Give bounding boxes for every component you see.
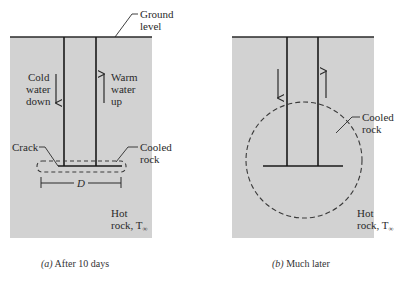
cold-label: Cold — [28, 71, 50, 83]
cold-label-3: down — [26, 95, 51, 107]
hot-rock-label-b-2: rock, T∞ — [357, 219, 394, 233]
ground-label-2: level — [140, 20, 161, 32]
warm-label: Warm — [111, 71, 138, 83]
cold-label-2: water — [26, 83, 51, 95]
caption-a: (a) After 10 days — [41, 258, 109, 270]
caption-b: (b) Much later — [272, 258, 330, 270]
hot-rock-label-a: Hot — [111, 207, 128, 219]
crack-label: Crack — [12, 141, 39, 153]
cooled-label-a: Cooled — [140, 141, 172, 153]
panel-b: Cooled rock Hot rock, T∞ (b) Much later — [232, 37, 394, 270]
cooled-label-a-2: rock — [140, 153, 160, 165]
warm-label-2: water — [111, 83, 136, 95]
geothermal-diagram: D Cold water down Warm water up Ground l… — [0, 0, 399, 281]
dimension-label: D — [76, 177, 85, 189]
hot-rock-label-a-2: rock, T∞ — [111, 219, 148, 233]
rock-region-b — [232, 37, 374, 238]
rock-region-a — [10, 37, 152, 238]
cooled-label-b-2: rock — [362, 123, 382, 135]
panel-a: D Cold water down Warm water up Ground l… — [10, 8, 174, 270]
hot-rock-label-b: Hot — [357, 207, 374, 219]
ground-label: Ground — [140, 8, 174, 20]
cooled-label-b: Cooled — [362, 111, 394, 123]
warm-label-3: up — [111, 95, 123, 107]
ground-leader — [115, 14, 138, 37]
